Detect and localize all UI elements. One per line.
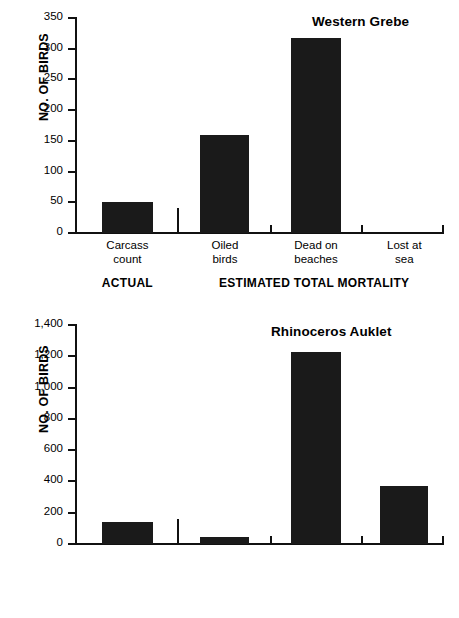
x-axis-tick [442, 536, 444, 545]
bar-carcass-count [102, 202, 153, 233]
x-axis-label-carcass-count: Carcasscount [86, 239, 169, 266]
figure-container: NO. OF BIRDS Western Grebe 0501001502002… [0, 0, 459, 618]
x-axis-tick [177, 519, 179, 545]
x-axis-label-line: Lost at [387, 239, 422, 251]
y-axis-tick: 200 [68, 109, 77, 111]
y-axis-tick: 350 [68, 17, 77, 19]
chart-panel-western-grebe: NO. OF BIRDS Western Grebe 0501001502002… [0, 0, 459, 310]
x-axis-label-line: Dead on [294, 239, 337, 251]
y-axis-tick-label: 200 [44, 101, 63, 115]
y-axis-tick-label: 100 [44, 163, 63, 177]
y-axis-tick: 300 [68, 48, 77, 50]
plot-area: 02004006008001,0001,2001,400 [75, 325, 443, 544]
bar-dead-on-beaches [291, 38, 341, 233]
x-axis-label-line: Oiled [212, 239, 239, 251]
y-axis-tick-label: 250 [44, 70, 63, 84]
group-label-actual: ACTUAL [86, 276, 169, 290]
y-axis-title: NO. OF BIRDS [0, 382, 22, 396]
y-axis-tick-label: 50 [50, 193, 63, 207]
y-axis-tick: 250 [68, 78, 77, 80]
bar-carcass-count [102, 522, 153, 544]
y-axis-tick-label: 1,200 [34, 347, 63, 361]
x-axis-label-line: Carcass [106, 239, 148, 251]
y-axis-tick-label: 1,000 [34, 379, 63, 393]
x-axis-label-line: beaches [276, 253, 357, 267]
x-axis-label-oiled-birds: Oiledbirds [185, 239, 264, 266]
y-axis-tick: 800 [68, 418, 77, 420]
bar-oiled-birds [200, 135, 249, 233]
y-axis-tick-label: 300 [44, 40, 63, 54]
y-axis-tick: 0 [68, 543, 77, 545]
x-axis-label-lost-at-sea: Lost atsea [366, 239, 443, 266]
x-axis-tick [177, 208, 179, 234]
bar-lost-at-sea [380, 486, 428, 544]
y-axis-tick-label: 200 [44, 504, 63, 518]
x-axis-label-line: count [86, 253, 169, 267]
y-axis-tick-label: 400 [44, 472, 63, 486]
x-axis-label-line: birds [185, 253, 264, 267]
y-axis-tick-label: 0 [57, 224, 63, 238]
y-axis-tick: 1,200 [68, 355, 77, 357]
bar-oiled-birds [200, 537, 249, 544]
chart-panel-rhinoceros-auklet: NO. OF BIRDS Rhinoceros Auklet 020040060… [0, 310, 459, 618]
y-axis-tick: 200 [68, 512, 77, 514]
y-axis-tick-label: 150 [44, 132, 63, 146]
y-axis-tick-label: 800 [44, 410, 63, 424]
y-axis-tick: 1,400 [68, 324, 77, 326]
y-axis-tick: 0 [68, 232, 77, 234]
x-axis-label-dead-on-beaches: Dead onbeaches [276, 239, 357, 266]
y-axis-tick: 1,000 [68, 387, 77, 389]
y-axis-tick-label: 1,400 [34, 316, 63, 330]
y-axis-tick-label: 0 [57, 535, 63, 549]
plot-area: 050100150200250300350 [75, 18, 443, 233]
x-axis-tick [270, 225, 272, 234]
y-axis-tick-label: 350 [44, 9, 63, 23]
group-label-estimated-total-mortality: ESTIMATED TOTAL MORTALITY [185, 276, 443, 290]
y-axis-tick: 150 [68, 140, 77, 142]
x-axis-tick [361, 536, 363, 545]
y-axis-tick: 600 [68, 449, 77, 451]
y-axis-tick: 50 [68, 201, 77, 203]
y-axis-tick: 100 [68, 171, 77, 173]
x-axis-tick [270, 536, 272, 545]
y-axis-title: NO. OF BIRDS [0, 70, 22, 84]
y-axis-tick: 400 [68, 480, 77, 482]
bar-dead-on-beaches [291, 352, 341, 544]
x-axis-label-line: sea [366, 253, 443, 267]
x-axis-tick [442, 225, 444, 234]
x-axis-tick [361, 225, 363, 234]
y-axis-tick-label: 600 [44, 441, 63, 455]
